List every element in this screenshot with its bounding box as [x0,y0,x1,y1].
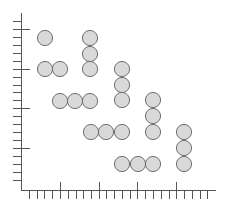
group-7 [145,92,160,139]
circle [52,93,67,108]
circle-groups [37,30,191,171]
circle [145,92,160,107]
group-5 [114,61,129,107]
circle [145,108,160,123]
dot-diagram [0,0,227,207]
circle [176,156,191,171]
circle [37,30,52,45]
circle [176,124,191,139]
group-3 [82,30,97,76]
circle [83,124,98,139]
circle [145,156,160,171]
circle [67,93,82,108]
circle [82,30,97,45]
circle [82,93,97,108]
circle [52,61,67,76]
circle [145,124,160,139]
group-4 [52,93,97,108]
group-9 [176,124,191,171]
group-2 [37,61,67,76]
circle [82,61,97,76]
group-8 [114,156,160,171]
circle [98,124,113,139]
circle [114,156,129,171]
group-1 [37,30,52,45]
circle [82,46,97,61]
circle [176,140,191,155]
circle [37,61,52,76]
circle [114,92,129,107]
circle [130,156,145,171]
circle [114,77,129,92]
circle [114,61,129,76]
group-6 [83,124,129,139]
circle [114,124,129,139]
